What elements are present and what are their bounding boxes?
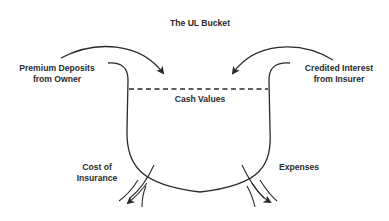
credited-interest-label-line2: from Insurer <box>292 74 386 85</box>
leak-right-crack-2 <box>247 186 255 207</box>
credited-interest-label-line1: Credited Interest <box>292 63 386 74</box>
expenses-label: Expenses <box>274 162 324 173</box>
cash-values-label: Cash Values <box>160 94 240 105</box>
premium-deposits-label: Premium Deposits from Owner <box>10 63 104 85</box>
leak-right-crack-3 <box>260 180 277 201</box>
cost-of-insurance-label-line2: Insurance <box>72 173 122 184</box>
cost-of-insurance-label-line1: Cost of <box>72 162 122 173</box>
bucket-diagram <box>0 0 389 221</box>
premium-deposits-label-line1: Premium Deposits <box>10 63 104 74</box>
leak-left-crack-1 <box>130 165 154 198</box>
diagram-title: The UL Bucket <box>160 18 240 29</box>
premium-deposits-label-line2: from Owner <box>10 74 104 85</box>
cost-of-insurance-label: Cost of Insurance <box>72 162 122 184</box>
credited-interest-label: Credited Interest from Insurer <box>292 63 386 85</box>
bucket-outline <box>108 63 290 192</box>
expenses-outflow-arrow <box>252 183 270 202</box>
